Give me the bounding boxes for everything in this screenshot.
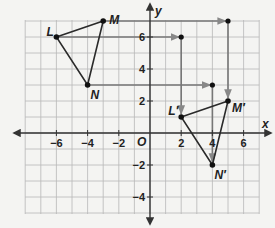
vertex-point bbox=[210, 162, 216, 168]
triangles: LMNL′M′N′ bbox=[46, 13, 246, 182]
y-tick-label: 2 bbox=[139, 95, 145, 107]
y-tick-label: −4 bbox=[132, 191, 145, 203]
x-tick-label: 6 bbox=[241, 137, 247, 149]
origin-label: O bbox=[137, 135, 147, 149]
corner-point bbox=[225, 18, 230, 23]
coordinate-plane: x y O −6−4−2246642−2−4 LMNL′M′N′ bbox=[0, 0, 275, 228]
corner-point bbox=[210, 82, 215, 87]
x-tick-label: −4 bbox=[81, 137, 94, 149]
y-axis-label: y bbox=[154, 4, 163, 18]
vertex-label: L′ bbox=[168, 104, 179, 118]
vertex-label: L bbox=[46, 25, 53, 39]
vertex-point bbox=[54, 34, 60, 40]
vertex-label: M′ bbox=[232, 101, 246, 115]
x-tick-label: 2 bbox=[178, 137, 184, 149]
x-tick-label: −6 bbox=[50, 137, 63, 149]
y-tick-label: 6 bbox=[139, 31, 145, 43]
x-tick-label: 4 bbox=[209, 137, 216, 149]
vertex-point bbox=[100, 18, 106, 24]
vertex-point bbox=[85, 82, 91, 88]
vertex-label: N′ bbox=[214, 168, 227, 182]
vertex-point bbox=[225, 98, 231, 104]
x-axis-label: x bbox=[261, 117, 270, 131]
vertex-label: N bbox=[91, 88, 100, 102]
vertex-point bbox=[178, 114, 184, 120]
y-tick-label: 4 bbox=[139, 63, 146, 75]
y-tick-label: −2 bbox=[132, 159, 145, 171]
corner-point bbox=[179, 34, 184, 39]
vertex-label: M bbox=[109, 13, 120, 27]
x-tick-label: −2 bbox=[113, 137, 126, 149]
